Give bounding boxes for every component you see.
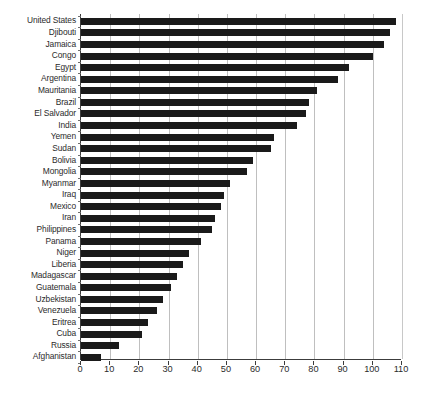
y-axis-label-mauritania: Mauritania xyxy=(0,86,76,95)
y-axis-label-madagascar: Madagascar xyxy=(0,271,76,280)
y-axis-label-mexico: Mexico xyxy=(0,202,76,211)
bar xyxy=(81,168,247,175)
x-axis-tick-labels: 0102030405060708090100110 xyxy=(80,364,401,380)
bar xyxy=(81,76,338,83)
bar xyxy=(81,53,373,60)
x-axis-tick-label-80: 80 xyxy=(308,364,318,375)
bar xyxy=(81,157,253,164)
y-axis-label-brazil: Brazil xyxy=(0,98,76,107)
x-axis-tick-label-70: 70 xyxy=(279,364,289,375)
bar xyxy=(81,319,148,326)
y-axis-label-myanmar: Myanmar xyxy=(0,179,76,188)
bar xyxy=(81,342,119,349)
bar xyxy=(81,354,101,361)
bar xyxy=(81,226,212,233)
bar xyxy=(81,238,201,245)
y-axis-label-yemen: Yemen xyxy=(0,132,76,141)
y-axis-label-panama: Panama xyxy=(0,237,76,246)
bar-chart: United StatesDjiboutiJamaicaCongoEgyptAr… xyxy=(0,0,424,395)
x-axis-tick-label-30: 30 xyxy=(162,364,172,375)
bar xyxy=(81,307,157,314)
bar xyxy=(81,284,171,291)
bar xyxy=(81,41,384,48)
y-axis-category-labels: United StatesDjiboutiJamaicaCongoEgyptAr… xyxy=(0,14,76,360)
y-axis-label-cuba: Cuba xyxy=(0,329,76,338)
y-axis-label-el-salvador: El Salvador xyxy=(0,109,76,118)
bar xyxy=(81,203,221,210)
bar-series xyxy=(81,14,401,359)
y-axis-label-venezuela: Venezuela xyxy=(0,306,76,315)
y-axis-label-egypt: Egypt xyxy=(0,63,76,72)
bar xyxy=(81,110,306,117)
bar xyxy=(81,134,274,141)
x-axis-tick-label-60: 60 xyxy=(250,364,260,375)
y-axis-label-djibouti: Djibouti xyxy=(0,28,76,37)
x-axis-tick-label-110: 110 xyxy=(394,364,409,375)
y-axis-label-guatemala: Guatemala xyxy=(0,283,76,292)
bar xyxy=(81,296,163,303)
bar xyxy=(81,250,189,257)
y-axis-label-iraq: Iraq xyxy=(0,190,76,199)
plot-area xyxy=(80,14,401,360)
bar xyxy=(81,180,230,187)
y-axis-label-jamaica: Jamaica xyxy=(0,40,76,49)
bar xyxy=(81,145,271,152)
y-axis-label-bolivia: Bolivia xyxy=(0,156,76,165)
x-axis-tick-label-100: 100 xyxy=(364,364,379,375)
y-axis-label-india: India xyxy=(0,121,76,130)
y-axis-label-argentina: Argentina xyxy=(0,74,76,83)
x-axis-tick-label-90: 90 xyxy=(338,364,348,375)
bar xyxy=(81,122,297,129)
y-axis-label-congo: Congo xyxy=(0,51,76,60)
x-axis-tick-label-0: 0 xyxy=(77,364,82,375)
bar xyxy=(81,18,396,25)
bar xyxy=(81,215,215,222)
bar xyxy=(81,29,390,36)
y-axis-label-afghanistan: Afghanistan xyxy=(0,352,76,361)
x-axis-tick-label-20: 20 xyxy=(133,364,143,375)
y-axis-label-uzbekistan: Uzbekistan xyxy=(0,295,76,304)
bar xyxy=(81,192,224,199)
bar xyxy=(81,273,177,280)
y-axis-label-iran: Iran xyxy=(0,213,76,222)
y-axis-label-philippines: Philippines xyxy=(0,225,76,234)
y-axis-label-liberia: Liberia xyxy=(0,260,76,269)
gridline-110 xyxy=(402,14,403,359)
bar xyxy=(81,87,317,94)
x-axis-tick-label-50: 50 xyxy=(221,364,231,375)
y-axis-label-mongolia: Mongolia xyxy=(0,167,76,176)
y-axis-label-sudan: Sudan xyxy=(0,144,76,153)
y-axis-label-russia: Russia xyxy=(0,341,76,350)
y-axis-label-eritrea: Eritrea xyxy=(0,318,76,327)
bar xyxy=(81,261,183,268)
bar xyxy=(81,331,142,338)
x-axis-tick-label-40: 40 xyxy=(192,364,202,375)
y-axis-label-united-states: United States xyxy=(0,16,76,25)
x-axis-tick-label-10: 10 xyxy=(104,364,114,375)
y-axis-label-niger: Niger xyxy=(0,248,76,257)
bar xyxy=(81,99,309,106)
bar xyxy=(81,64,349,71)
